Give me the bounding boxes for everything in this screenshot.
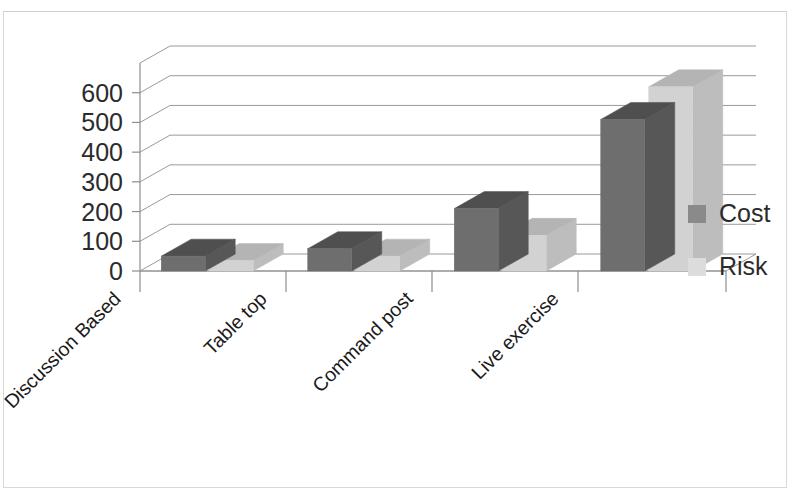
y-tick-label: 100 <box>81 227 123 255</box>
chart-page: 6005004003002001000 Discussion BasedTabl… <box>0 0 791 491</box>
bar-series-group <box>161 70 723 271</box>
bar-chart-3d: 6005004003002001000 Discussion BasedTabl… <box>0 0 791 491</box>
legend-swatch-risk <box>688 258 706 276</box>
x-axis-category-labels: Discussion BasedTable topCommand postLiv… <box>0 287 563 413</box>
y-axis-tick-labels: 6005004003002001000 <box>81 79 123 285</box>
y-tick-label: 400 <box>81 138 123 166</box>
y-axis <box>132 63 140 271</box>
category-label: Table top <box>199 287 271 359</box>
x-axis <box>140 271 726 292</box>
bar-cost-command-post <box>454 192 528 271</box>
chart-canvas: 6005004003002001000 Discussion BasedTabl… <box>0 0 791 491</box>
legend-swatch-cost <box>688 205 706 223</box>
category-label: Discussion Based <box>0 287 125 412</box>
y-tick-label: 200 <box>81 198 123 226</box>
category-label: Live exercise <box>467 287 563 383</box>
bar-cost-live-exercise <box>601 102 675 271</box>
legend-label: Cost <box>719 199 770 227</box>
y-tick-label: 600 <box>81 79 123 107</box>
category-label: Command post <box>308 287 417 396</box>
y-tick-label: 300 <box>81 168 123 196</box>
gridline-700 <box>140 46 756 63</box>
legend-label: Risk <box>719 252 768 280</box>
y-tick-label: 500 <box>81 108 123 136</box>
y-tick-label: 0 <box>109 257 123 285</box>
